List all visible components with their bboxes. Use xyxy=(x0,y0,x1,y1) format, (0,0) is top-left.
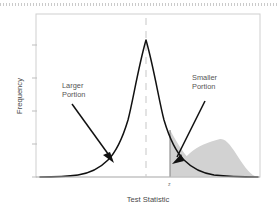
smaller-portion-label-line2: Portion xyxy=(192,82,215,91)
x-axis-title: Test Statistic xyxy=(127,195,170,204)
larger-portion-label-line2: Portion xyxy=(62,90,85,99)
chart-page: Larger Portion Smaller Portion z Test St… xyxy=(0,0,279,213)
z-marker-label: z xyxy=(168,181,171,187)
smaller-portion-label-line1: Smaller xyxy=(192,73,218,82)
distribution-chart: Larger Portion Smaller Portion z Test St… xyxy=(0,0,279,213)
y-axis-title: Frequency xyxy=(15,78,24,114)
larger-portion-label-line1: Larger xyxy=(62,81,84,90)
